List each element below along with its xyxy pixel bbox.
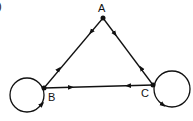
edge-b-c <box>44 85 153 88</box>
node-c <box>151 83 156 88</box>
self-loop-c <box>154 71 190 107</box>
graph-diagram: ) A B C <box>0 0 193 121</box>
self-loop-b <box>10 78 44 112</box>
node-c-label: C <box>141 87 149 99</box>
node-b <box>42 86 47 91</box>
corner-mark: ) <box>0 0 2 12</box>
edge-a-b <box>44 18 103 88</box>
node-b-label: B <box>48 91 55 103</box>
node-a-label: A <box>98 2 106 14</box>
edge-a-c <box>103 18 153 85</box>
node-a <box>101 16 106 21</box>
